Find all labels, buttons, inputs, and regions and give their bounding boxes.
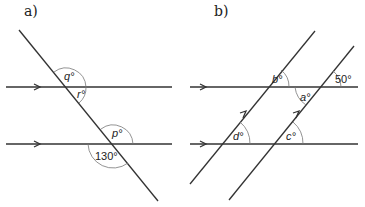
panel-b-label: b) — [214, 3, 228, 19]
transversal-left — [190, 31, 315, 184]
angle-p: p° — [111, 127, 123, 139]
angle-q: q° — [64, 70, 75, 82]
angle-130: 130° — [95, 150, 118, 162]
angle-d: d° — [233, 130, 244, 142]
panel-a-label: a) — [24, 3, 38, 19]
parallel-lines-diagram: a) q° r° p° 130° b) b° a° 50 — [0, 0, 365, 207]
angle-50: 50° — [335, 73, 352, 85]
transversal-right — [229, 46, 354, 200]
double-arrow-icon — [293, 111, 299, 118]
panel-b: b) b° a° 50° d° c° — [190, 3, 358, 200]
angle-c: c° — [286, 130, 297, 142]
panel-a: a) q° r° p° 130° — [6, 3, 172, 201]
angle-a: a° — [300, 91, 311, 103]
angle-b: b° — [272, 73, 283, 85]
transversal — [19, 30, 158, 201]
angle-r: r° — [77, 88, 86, 100]
